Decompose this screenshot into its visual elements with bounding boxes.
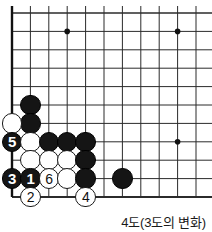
stone-black-move-1[interactable]: 1	[20, 168, 41, 189]
stone-black-c1r6[interactable]	[20, 113, 41, 134]
star-point-0	[64, 29, 70, 35]
star-point-2	[175, 139, 181, 145]
stone-black-c6r9[interactable]	[112, 168, 133, 189]
stone-white-move-2[interactable]: 2	[20, 187, 41, 208]
stone-black-c2r7[interactable]	[39, 132, 60, 153]
stone-black-c4r9[interactable]	[75, 168, 96, 189]
stone-white-move-4[interactable]: 4	[75, 187, 96, 208]
stone-move-number: 4	[82, 190, 89, 204]
stone-white-c1r7[interactable]	[20, 132, 41, 153]
stone-white-move-6[interactable]: 6	[39, 168, 60, 189]
stone-white-c0r6[interactable]	[2, 113, 23, 134]
stone-black-c4r7[interactable]	[75, 132, 96, 153]
diagram-caption: 4도(3도의 변화)	[0, 210, 212, 232]
go-diagram-page: 531624 4도(3도의 변화)	[0, 0, 212, 232]
stone-move-number: 6	[45, 171, 52, 185]
star-point-1	[175, 29, 181, 35]
stone-move-number: 2	[27, 190, 34, 204]
stone-move-number: 1	[26, 171, 34, 186]
stone-move-number: 3	[8, 171, 16, 186]
stone-move-number: 5	[8, 134, 16, 149]
